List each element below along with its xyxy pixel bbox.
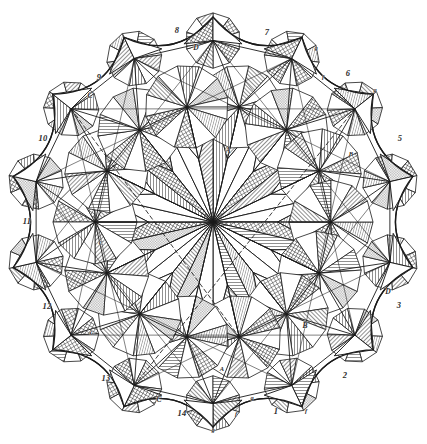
tessellation-figure: [0, 0, 427, 444]
figure-canvas: 123567891011121314AABBCCCCDDgfgffgg: [0, 0, 427, 444]
